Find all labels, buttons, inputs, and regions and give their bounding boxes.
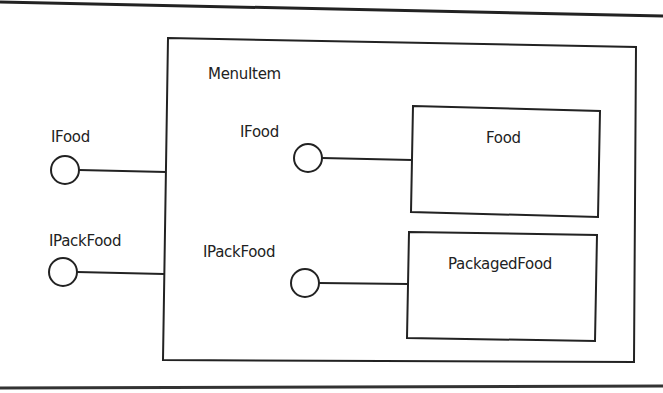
internal-ipackfood-label: IPackFood <box>203 243 275 261</box>
external-ifood-label: IFood <box>51 128 90 146</box>
food-component-box <box>411 106 600 217</box>
external-ipackfood-label: IPackFood <box>49 232 121 250</box>
bottom-rule <box>0 386 663 388</box>
internal-ipackfood-connector <box>319 283 408 284</box>
packagedfood-component-label: PackagedFood <box>448 255 552 273</box>
packagedfood-component-box <box>407 232 597 341</box>
external-ifood-connector <box>79 170 166 172</box>
internal-ifood-connector <box>322 158 412 160</box>
food-component-label: Food <box>486 129 521 147</box>
external-ifood-interface-icon <box>51 156 79 184</box>
menuitem-label: MenuItem <box>208 65 281 83</box>
internal-ifood-interface-icon <box>294 144 322 172</box>
internal-ifood-label: IFood <box>240 123 279 141</box>
menuitem-component-box <box>163 38 636 362</box>
external-ipackfood-interface-icon <box>49 258 77 286</box>
internal-ipackfood-interface-icon <box>291 269 319 297</box>
top-rule <box>0 2 663 16</box>
diagram-canvas <box>0 0 663 393</box>
external-ipackfood-connector <box>77 272 164 274</box>
